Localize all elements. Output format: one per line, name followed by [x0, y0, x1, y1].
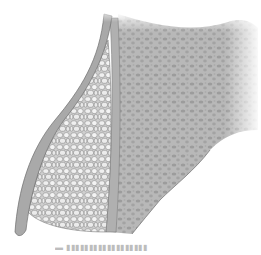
figure-caption: ▬ ▮▮▮▮▮▮▮▮▮▮▮▮▮▮▮▮▮▮: [55, 243, 261, 255]
graft-particles: [28, 40, 111, 232]
bone-graft-illustration: [0, 0, 261, 255]
